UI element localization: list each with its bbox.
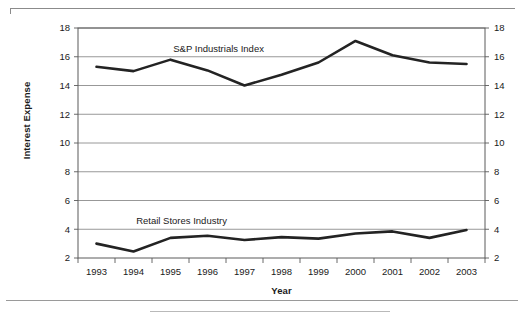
x-tick-label: 1997 — [234, 266, 255, 277]
y-tick-label-right: 6 — [494, 195, 499, 206]
series-label: Retail Stores Industry — [136, 215, 227, 226]
x-tick-label: 2002 — [419, 266, 440, 277]
y-tick-label-right: 8 — [494, 166, 499, 177]
x-tick-label: 2001 — [382, 266, 403, 277]
chart-figure: 2244668810101212141416161818199319941995… — [0, 0, 524, 316]
page-rule-bottom-secondary — [150, 311, 390, 312]
y-axis-title: Interest Expense — [21, 61, 32, 181]
y-tick-label-left: 2 — [65, 252, 70, 263]
y-tick-label-left: 12 — [59, 109, 70, 120]
y-tick-label-right: 12 — [494, 109, 505, 120]
x-tick-label: 1999 — [308, 266, 329, 277]
y-tick-label-right: 4 — [494, 224, 499, 235]
x-tick-label: 2003 — [456, 266, 477, 277]
x-tick-label: 1994 — [123, 266, 144, 277]
y-tick-label-left: 10 — [59, 137, 70, 148]
y-tick-label-left: 14 — [59, 80, 70, 91]
y-tick-label-right: 10 — [494, 137, 505, 148]
y-tick-label-left: 4 — [65, 224, 70, 235]
x-tick-label: 2000 — [345, 266, 366, 277]
x-tick-label: 1993 — [86, 266, 107, 277]
series-label: S&P Industrials Index — [173, 43, 264, 54]
line-chart: 2244668810101212141416161818199319941995… — [0, 0, 524, 316]
y-tick-label-right: 16 — [494, 51, 505, 62]
x-tick-label: 1995 — [160, 266, 181, 277]
x-tick-label: 1996 — [197, 266, 218, 277]
y-tick-label-left: 8 — [65, 166, 70, 177]
y-tick-label-left: 6 — [65, 195, 70, 206]
page-rule-bottom — [6, 300, 518, 301]
series-line — [97, 41, 467, 86]
y-tick-label-left: 18 — [59, 22, 70, 33]
x-tick-label: 1998 — [271, 266, 292, 277]
y-tick-label-right: 14 — [494, 80, 505, 91]
y-tick-label-right: 2 — [494, 252, 499, 263]
y-tick-label-right: 18 — [494, 22, 505, 33]
y-tick-label-left: 16 — [59, 51, 70, 62]
series-line — [97, 230, 467, 252]
x-axis-title: Year — [78, 285, 485, 296]
